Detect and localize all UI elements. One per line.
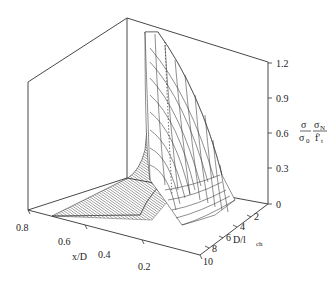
y-tick-6: 6 <box>226 232 231 243</box>
z-tick-1.2: 1.2 <box>276 58 289 69</box>
z-tick-0.3: 0.3 <box>276 163 289 174</box>
y-axis: 2 4 6 8 10 D/l ch <box>203 211 263 267</box>
x-tick-0.8: 0.8 <box>16 222 29 233</box>
y-tick-10: 10 <box>203 256 213 267</box>
z-axis-label: σ σ 0 σ N f' t <box>299 119 327 145</box>
svg-text:σ: σ <box>301 119 307 130</box>
z-tick-0.9: 0.9 <box>276 93 289 104</box>
y-axis-label: D/l <box>233 234 246 245</box>
y-tick-8: 8 <box>212 243 217 254</box>
svg-text:σ: σ <box>299 132 305 143</box>
x-axis: 0.8 0.6 0.4 0.2 x/D <box>16 210 202 272</box>
y-tick-2: 2 <box>254 211 259 222</box>
svg-text:f': f' <box>315 132 320 143</box>
surface-plot: 1.2 0.9 0.6 0.3 0 σ σ 0 σ N f' t 0.8 0.6… <box>0 0 329 285</box>
svg-text:0: 0 <box>306 137 310 145</box>
z-axis: 1.2 0.9 0.6 0.3 0 σ σ 0 σ N f' t <box>268 58 327 210</box>
z-tick-0: 0 <box>276 199 281 210</box>
y-tick-4: 4 <box>240 221 245 232</box>
y-axis-label-sub: ch <box>256 240 263 248</box>
x-tick-0.2: 0.2 <box>138 261 151 272</box>
x-tick-0.4: 0.4 <box>98 249 111 260</box>
x-tick-0.6: 0.6 <box>58 236 71 247</box>
z-tick-0.6: 0.6 <box>276 128 289 139</box>
x-axis-label: x/D <box>72 251 87 262</box>
svg-text:t: t <box>321 137 323 145</box>
